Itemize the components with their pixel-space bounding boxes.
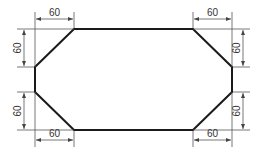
dimension-top-right-horizontal: 60 [193, 7, 232, 67]
dimension-right-top-vertical: 60 [193, 29, 250, 67]
dimension-left-bottom-vertical: 60 [12, 92, 74, 130]
dimension-bottom-left-horizontal: 60 [35, 92, 74, 147]
dimension-label: 60 [231, 105, 242, 117]
dimension-label: 60 [49, 7, 61, 18]
dimension-label: 60 [49, 128, 61, 139]
dimension-left-top-vertical: 60 [12, 29, 74, 67]
technical-drawing: 60 60 60 60 60 60 60 [0, 0, 259, 157]
dimension-right-bottom-vertical: 60 [193, 92, 250, 130]
dimension-label: 60 [231, 42, 242, 54]
dimension-label: 60 [12, 42, 23, 54]
chamfered-octagon-outline [35, 29, 232, 130]
dimension-label: 60 [12, 105, 23, 117]
dimension-label: 60 [207, 128, 219, 139]
dimension-bottom-right-horizontal: 60 [193, 92, 232, 147]
dimension-top-left-horizontal: 60 [35, 7, 74, 67]
dimension-label: 60 [207, 7, 219, 18]
